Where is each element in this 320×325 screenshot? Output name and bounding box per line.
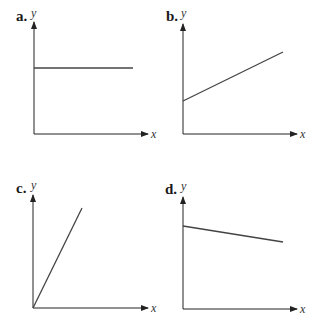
data-line xyxy=(33,208,82,308)
y-axis-label: y xyxy=(180,179,187,193)
panel-a: a. y x xyxy=(16,6,157,141)
panel-d: d. y x xyxy=(165,179,306,316)
x-axis-label: x xyxy=(150,301,157,315)
panel-label: c. xyxy=(16,180,27,196)
y-axis-label: y xyxy=(30,6,37,20)
panel-label: d. xyxy=(165,181,177,197)
x-axis-label: x xyxy=(299,302,306,316)
x-axis-label: x xyxy=(150,127,157,141)
data-line xyxy=(183,52,283,101)
x-axis-label: x xyxy=(299,127,306,141)
graphs-figure: a. y x b. y x c. y x d. y x xyxy=(0,0,320,325)
panel-label: b. xyxy=(166,8,178,24)
panel-label: a. xyxy=(16,8,28,24)
panel-c: c. y x xyxy=(16,178,157,315)
y-axis-label: y xyxy=(180,6,187,20)
y-axis-label: y xyxy=(30,178,37,192)
panel-b: b. y x xyxy=(166,6,306,141)
data-line xyxy=(183,226,283,242)
